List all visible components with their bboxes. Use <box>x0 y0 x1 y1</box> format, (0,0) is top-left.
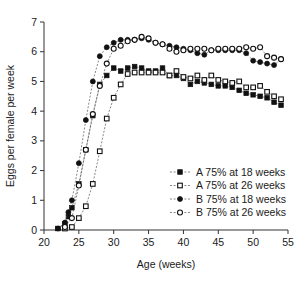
data-point <box>174 49 179 54</box>
data-point <box>216 46 221 51</box>
data-point <box>251 93 256 98</box>
data-point <box>118 82 123 87</box>
y-tick-label: 4 <box>31 105 37 117</box>
x-tick-label: 45 <box>212 236 224 248</box>
x-tick-label: 35 <box>143 236 155 248</box>
data-point <box>111 66 116 71</box>
data-point <box>125 66 130 71</box>
data-point <box>125 72 130 77</box>
data-point <box>55 226 60 231</box>
data-point <box>244 91 249 96</box>
data-point <box>216 78 221 83</box>
data-point <box>118 69 123 74</box>
data-point <box>132 37 137 42</box>
eggs-per-female-chart: 012345672025303540455055 A 75% at 18 wee… <box>0 0 308 282</box>
data-point <box>279 57 284 62</box>
data-point <box>251 58 256 63</box>
chart-container: 012345672025303540455055 A 75% at 18 wee… <box>0 0 308 282</box>
x-tick-label: 50 <box>247 236 259 248</box>
data-point <box>83 118 88 123</box>
legend-label: A 75% at 26 weeks <box>196 179 285 191</box>
data-point <box>167 73 172 78</box>
data-point <box>178 170 183 175</box>
data-point <box>188 82 193 87</box>
y-tick-label: 7 <box>31 16 37 28</box>
data-point <box>195 46 200 51</box>
data-point <box>153 40 158 45</box>
data-point <box>83 147 88 152</box>
data-point <box>178 210 183 215</box>
data-point <box>118 43 123 48</box>
data-point <box>111 40 116 45</box>
data-point <box>223 46 228 51</box>
data-point <box>167 46 172 51</box>
data-point <box>216 84 221 89</box>
x-tick-label: 55 <box>282 236 294 248</box>
data-point <box>69 198 74 203</box>
data-point <box>146 36 151 41</box>
data-point <box>70 225 75 230</box>
data-point <box>272 100 277 105</box>
data-point <box>202 46 207 51</box>
y-tick-label: 2 <box>31 164 37 176</box>
data-point <box>202 78 207 83</box>
data-point <box>118 37 123 42</box>
data-point <box>84 204 89 209</box>
data-point <box>69 216 74 221</box>
data-point <box>258 94 263 99</box>
data-point <box>77 216 82 221</box>
data-point <box>160 42 165 47</box>
data-point <box>237 46 242 51</box>
data-point <box>202 52 207 57</box>
data-point <box>251 85 256 90</box>
data-point <box>97 149 102 154</box>
x-tick-label: 25 <box>73 236 85 248</box>
data-point <box>104 116 109 121</box>
data-point <box>66 210 71 215</box>
data-point <box>209 48 214 53</box>
data-point <box>237 79 242 84</box>
data-point <box>111 46 116 51</box>
data-point <box>90 79 95 84</box>
legend-label: B 75% at 26 weeks <box>196 206 286 218</box>
data-point <box>223 79 228 84</box>
y-axis-title: Eggs per female per week <box>4 64 16 187</box>
data-point <box>251 46 256 51</box>
y-tick-label: 1 <box>31 194 37 206</box>
data-point <box>178 197 183 202</box>
data-point <box>244 45 249 50</box>
data-point <box>195 79 200 84</box>
data-point <box>272 55 277 60</box>
data-point <box>258 60 263 65</box>
data-point <box>90 112 95 117</box>
data-point <box>139 34 144 39</box>
data-point <box>244 85 249 90</box>
data-point <box>237 88 242 93</box>
data-point <box>209 73 214 78</box>
data-point <box>111 95 116 100</box>
data-point <box>104 45 109 50</box>
x-tick-label: 40 <box>178 236 190 248</box>
data-point <box>188 46 193 51</box>
data-point <box>97 54 102 59</box>
data-point <box>230 46 235 51</box>
data-point <box>132 64 137 69</box>
data-point <box>209 82 214 87</box>
data-point <box>279 97 284 102</box>
data-point <box>139 70 144 75</box>
legend-label: B 75% at 18 weeks <box>196 193 286 205</box>
data-point <box>178 183 183 188</box>
data-point <box>258 84 263 89</box>
y-tick-label: 0 <box>31 224 37 236</box>
x-tick-label: 30 <box>108 236 120 248</box>
data-point <box>62 225 67 230</box>
y-tick-label: 5 <box>31 75 37 87</box>
data-point <box>132 70 137 75</box>
data-point <box>265 54 270 59</box>
data-point <box>76 161 81 166</box>
x-axis-title: Age (weeks) <box>137 258 195 270</box>
data-point <box>104 73 109 78</box>
data-point <box>153 70 158 75</box>
data-point <box>195 73 200 78</box>
data-point <box>265 95 270 100</box>
